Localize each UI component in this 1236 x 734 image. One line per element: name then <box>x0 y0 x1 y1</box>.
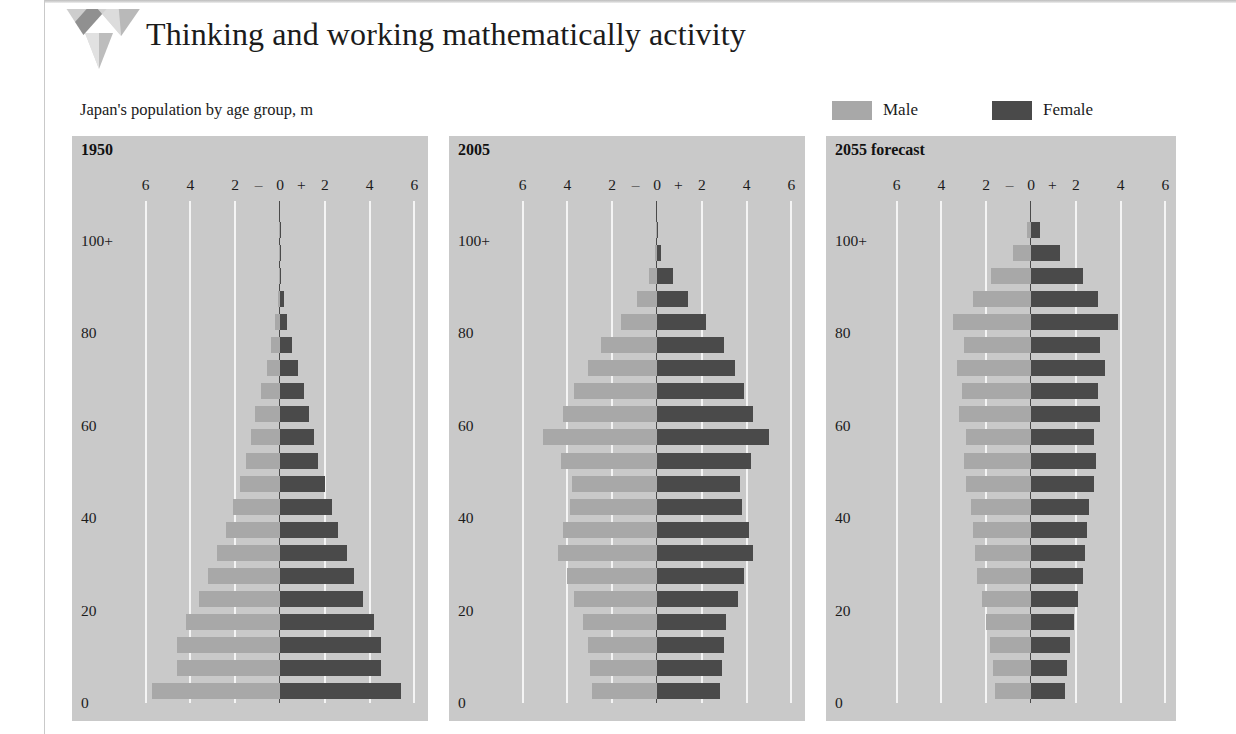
bar-male <box>267 360 280 376</box>
bar-female <box>657 683 720 699</box>
bar-female <box>657 222 658 238</box>
bar-male <box>601 337 657 353</box>
x-axis-tick-label: 2 <box>698 176 706 194</box>
bar-female <box>657 614 726 630</box>
bar-female <box>657 522 749 538</box>
x-axis-tick-label: 2 <box>982 176 990 194</box>
bar-female <box>657 291 688 307</box>
bar-female <box>280 245 281 261</box>
bar-male <box>567 568 657 584</box>
pyramid-panel: 19506420246–+100+806040200 <box>72 136 428 721</box>
bar-male <box>208 568 280 584</box>
bar-male <box>991 268 1031 284</box>
bar-female <box>657 453 751 469</box>
bar-male <box>570 499 657 515</box>
bar-male <box>255 406 280 422</box>
bar-male <box>563 406 657 422</box>
bar-female <box>657 337 724 353</box>
x-axis-minus-sign: – <box>255 176 263 194</box>
legend-swatch-female <box>992 101 1032 120</box>
page-root: Thinking and working mathematically acti… <box>0 0 1236 734</box>
bar-female <box>1031 429 1094 445</box>
bar-male <box>588 360 657 376</box>
bar-male <box>975 545 1031 561</box>
bar-male <box>953 314 1031 330</box>
gridline <box>413 201 415 703</box>
bar-female <box>1031 683 1065 699</box>
bar-female <box>1031 314 1118 330</box>
x-axis-tick-label: 2 <box>321 176 329 194</box>
y-axis-tick-label: 100+ <box>458 232 490 250</box>
bar-male <box>152 683 280 699</box>
bar-female <box>280 683 401 699</box>
bar-male <box>973 291 1031 307</box>
y-axis-tick-label: 100+ <box>835 232 867 250</box>
bar-male <box>574 591 657 607</box>
bar-female <box>1031 222 1040 238</box>
legend-swatch-male <box>832 101 872 120</box>
pyramid-panel: 2055 forecast6420246–+100+806040200 <box>826 136 1176 721</box>
y-axis-tick-label: 80 <box>835 324 851 342</box>
bar-male <box>982 591 1031 607</box>
x-axis-minus-sign: – <box>632 176 640 194</box>
bar-female <box>1031 453 1096 469</box>
gridline <box>1164 201 1166 703</box>
bar-male <box>959 406 1031 422</box>
x-axis-tick-label: 4 <box>564 176 572 194</box>
bar-female <box>280 614 374 630</box>
bar-female <box>657 660 722 676</box>
bar-female <box>1031 383 1098 399</box>
bar-female <box>657 591 738 607</box>
bar-male <box>240 476 280 492</box>
gridline <box>896 201 898 703</box>
x-axis-tick-label: 6 <box>788 176 796 194</box>
bar-female <box>657 499 742 515</box>
bar-female <box>657 429 769 445</box>
bar-female <box>1031 360 1105 376</box>
bar-female <box>657 383 744 399</box>
bar-female <box>1031 499 1089 515</box>
x-axis-tick-label: 4 <box>938 176 946 194</box>
bar-female <box>280 637 381 653</box>
bar-male <box>592 683 657 699</box>
bar-male <box>226 522 280 538</box>
bar-female <box>280 591 363 607</box>
bar-female <box>1031 476 1094 492</box>
y-axis-tick-label: 80 <box>81 324 97 342</box>
panel-title: 1950 <box>81 141 113 159</box>
bar-male <box>261 383 280 399</box>
x-axis-tick-label: 2 <box>608 176 616 194</box>
bar-male <box>966 429 1031 445</box>
x-axis-tick-label: 6 <box>142 176 150 194</box>
x-axis-tick-label: 0 <box>1027 176 1035 194</box>
bar-male <box>583 614 657 630</box>
bar-male <box>1013 245 1031 261</box>
x-axis-plus-sign: + <box>297 176 306 194</box>
x-axis-minus-sign: – <box>1006 176 1014 194</box>
bar-male <box>966 476 1031 492</box>
bar-male <box>964 453 1031 469</box>
bar-male <box>574 383 657 399</box>
y-axis-tick-label: 80 <box>458 324 474 342</box>
bar-female <box>1031 637 1070 653</box>
bar-female <box>280 291 284 307</box>
y-axis-tick-label: 0 <box>458 694 466 712</box>
bar-male <box>637 291 657 307</box>
bar-female <box>657 545 753 561</box>
bar-male <box>957 360 1031 376</box>
x-axis-tick-label: 4 <box>187 176 195 194</box>
x-axis-tick-label: 6 <box>893 176 901 194</box>
legend-label-female: Female <box>1043 100 1093 120</box>
bar-female <box>280 453 318 469</box>
bar-male <box>649 268 657 284</box>
bar-male <box>186 614 280 630</box>
panel-title: 2005 <box>458 141 490 159</box>
bar-male <box>971 499 1031 515</box>
bar-male <box>590 660 657 676</box>
bar-female <box>280 360 298 376</box>
bar-male <box>993 660 1031 676</box>
bar-female <box>280 314 287 330</box>
header: Thinking and working mathematically acti… <box>45 3 1236 81</box>
bar-male <box>177 637 280 653</box>
page-title: Thinking and working mathematically acti… <box>146 11 746 57</box>
